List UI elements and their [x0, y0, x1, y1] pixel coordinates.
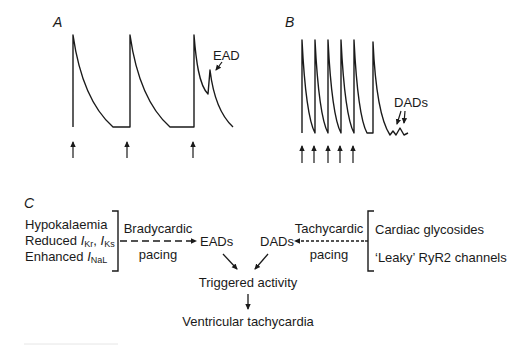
dads-arrow-icons: [397, 111, 405, 124]
panel-c-label: C: [24, 196, 34, 210]
triggered-activity-node: Triggered activity: [199, 276, 298, 289]
bradycardic-pacing-label: pacing: [139, 248, 177, 261]
ventricular-tachycardia-node: Ventricular tachycardia: [182, 315, 314, 328]
cause-enhanced-inal: Enhanced INaL: [25, 250, 107, 263]
panel-b-pacing-arrows: [302, 146, 353, 163]
panel-a-trace: [73, 35, 233, 127]
dads-node: DADs: [260, 235, 294, 248]
cause-cardiac-glycosides: Cardiac glycosides: [375, 223, 484, 236]
panel-a-label: A: [53, 15, 62, 29]
right-bracket: [368, 211, 374, 271]
dads-to-triggered-arrow: [255, 254, 268, 269]
panel-b-trace: [302, 40, 408, 135]
ead-arrow-icon: [216, 62, 222, 70]
tachycardic-label: Tachycardic: [295, 222, 364, 235]
panel-b-label: B: [285, 15, 294, 29]
cause-leaky-ryr2: ‘Leaky’ RyR2 channels: [375, 251, 507, 264]
tachycardic-pacing-label: pacing: [310, 248, 348, 261]
bradycardic-label: Bradycardic: [124, 222, 193, 235]
eads-node: EADs: [200, 235, 233, 248]
ead-annotation: EAD: [213, 49, 240, 62]
panel-a-pacing-arrows: [73, 142, 193, 158]
eads-to-triggered-arrow: [223, 254, 237, 269]
dads-annotation: DADs: [394, 96, 428, 109]
figure-graphics: [0, 0, 523, 346]
cause-hypokalaemia: Hypokalaemia: [25, 218, 107, 231]
cause-reduced-ikr-iks: Reduced IKr, IKs: [25, 234, 115, 247]
